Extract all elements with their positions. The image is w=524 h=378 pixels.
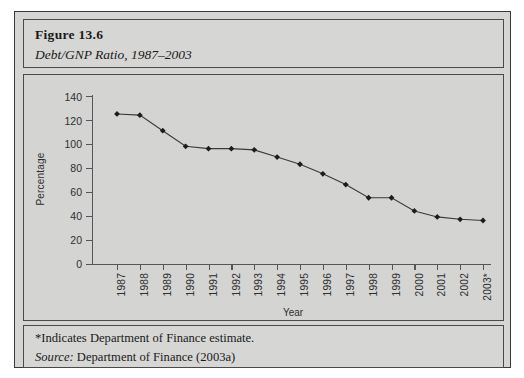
data-point-1997 (343, 182, 349, 188)
chart-panel: Percentage Year 020406080100120140 19871… (23, 74, 504, 321)
data-point-1987 (114, 111, 120, 117)
series-line (117, 114, 483, 221)
data-point-1999 (389, 195, 395, 201)
plot-area: Percentage Year 020406080100120140 19871… (24, 75, 503, 320)
data-point-2001 (434, 214, 440, 220)
data-point-1994 (274, 154, 280, 160)
figure-number: Figure 13.6 (35, 25, 493, 45)
footnote-source: Source: Department of Finance (2003a) (35, 348, 493, 367)
data-point-1993 (251, 147, 257, 153)
figure-footnote-panel: *Indicates Department of Finance estimat… (23, 325, 504, 368)
data-point-2000 (411, 208, 417, 214)
data-point-1996 (320, 171, 326, 177)
data-series-debt-gnp-ratio (24, 75, 505, 322)
source-text: Department of Finance (2003a) (74, 350, 236, 364)
data-point-1995 (297, 161, 303, 167)
figure-frame: Figure 13.6 Debt/GNP Ratio, 1987–2003 Pe… (14, 11, 511, 368)
data-point-1992 (228, 146, 234, 152)
figure-subtitle: Debt/GNP Ratio, 1987–2003 (35, 45, 493, 65)
data-point-1991 (206, 146, 212, 152)
data-point-2002 (457, 216, 463, 222)
footnote-estimate-note: *Indicates Department of Finance estimat… (35, 329, 493, 348)
data-point-2003 (480, 218, 486, 224)
figure-caption-panel: Figure 13.6 Debt/GNP Ratio, 1987–2003 (23, 19, 504, 68)
data-point-1998 (366, 195, 372, 201)
source-label: Source: (35, 350, 74, 364)
